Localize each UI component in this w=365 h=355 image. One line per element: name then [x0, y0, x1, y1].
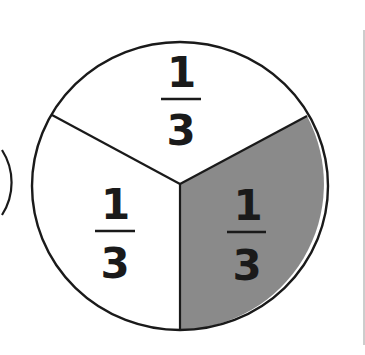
fraction-circle-svg: 1 3 1 3 1 3 — [0, 0, 365, 355]
label-top-fraction: 1 3 — [161, 48, 201, 155]
fraction-diagram: 1 3 1 3 1 3 — [0, 0, 365, 355]
label-bottom-left-fraction: 1 3 — [95, 180, 135, 288]
label-top-denominator: 3 — [166, 106, 195, 155]
label-bottom-right-numerator: 1 — [233, 181, 262, 230]
label-bottom-left-numerator: 1 — [101, 180, 130, 229]
label-bottom-left-denominator: 3 — [100, 239, 129, 288]
label-bottom-right-denominator: 3 — [232, 241, 261, 290]
neighbor-circle-edge — [2, 150, 12, 215]
label-top-numerator: 1 — [167, 48, 196, 97]
divider-upper-left — [52, 115, 180, 184]
